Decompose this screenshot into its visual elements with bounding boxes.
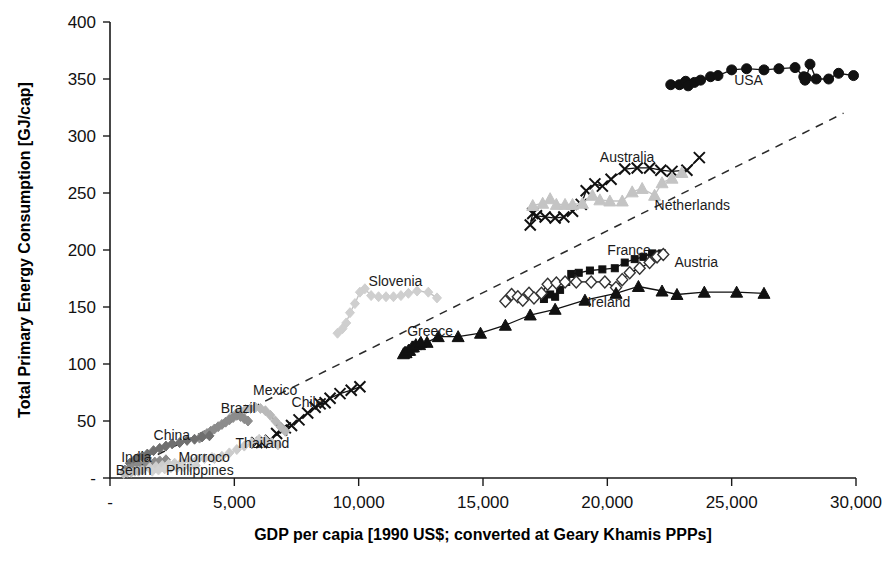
x-tick-label: 15,000 [457, 493, 509, 512]
x-tick-label: - [107, 493, 113, 512]
data-point [293, 414, 304, 425]
data-point [713, 71, 723, 81]
x-tick-label: 10,000 [333, 493, 385, 512]
series-line [530, 158, 699, 225]
data-point [801, 73, 811, 83]
series-label-brazil: Brazil [221, 400, 256, 416]
data-point [774, 64, 784, 74]
series-labels-layer: USAAustraliaNetherlandsFranceAustriaIrel… [116, 72, 764, 478]
y-tick-label: 200 [68, 241, 96, 260]
series-label-greece: Greece [407, 323, 453, 339]
x-tick-label: 30,000 [830, 493, 882, 512]
y-tick-label: 100 [68, 355, 96, 374]
data-point [404, 288, 413, 298]
data-point [790, 63, 800, 73]
data-point [350, 299, 359, 309]
x-axis-title: GDP per capia [1990 US$; converted at Ge… [254, 526, 712, 543]
series-label-thailand: Thailand [236, 435, 290, 451]
series-label-ireland: Ireland [587, 294, 630, 310]
data-point [586, 267, 593, 274]
series-label-france: France [607, 242, 651, 258]
data-point [636, 182, 648, 193]
data-point [811, 74, 821, 84]
series-label-mexico: Mexico [253, 382, 298, 398]
data-point [621, 259, 628, 266]
data-point [834, 68, 844, 78]
y-tick-label: 150 [68, 298, 96, 317]
series-label-usa: USA [734, 72, 763, 88]
energy-gdp-scatter-chart: -50100150200250300350400-5,00010,00015,0… [0, 0, 894, 572]
data-point [599, 266, 606, 273]
y-tick-label: 400 [68, 13, 96, 32]
data-point [849, 71, 859, 81]
data-point [626, 186, 638, 197]
data-point [696, 75, 706, 85]
data-point [424, 287, 433, 297]
x-tick-label: 5,000 [213, 493, 256, 512]
series-label-austria: Austria [674, 254, 718, 270]
data-point [805, 59, 815, 69]
y-tick-label: 350 [68, 70, 96, 89]
data-point [525, 219, 536, 230]
y-tick-label: - [90, 469, 96, 488]
y-tick-label: 50 [77, 412, 96, 431]
data-point [606, 174, 617, 185]
y-tick-label: 250 [68, 184, 96, 203]
data-point [632, 280, 644, 291]
series-greece [397, 336, 426, 358]
y-tick-label: 300 [68, 127, 96, 146]
data-point [568, 270, 575, 277]
chart-container: -50100150200250300350400-5,00010,00015,0… [0, 0, 894, 572]
data-point [824, 74, 834, 84]
data-point [335, 388, 346, 399]
y-axis-title: Total Primary Energy Consumption [GJ/cap… [16, 82, 33, 418]
data-point [499, 319, 511, 330]
data-point [432, 293, 441, 303]
series-label-slovenia: Slovenia [369, 273, 423, 289]
data-point [396, 291, 405, 301]
data-point [599, 276, 610, 288]
series-label-china: China [154, 427, 191, 443]
series-label-australia: Australia [600, 149, 655, 165]
series-label-netherlands: Netherlands [655, 197, 731, 213]
data-point [552, 293, 559, 300]
series-label-benin: Benin [116, 462, 152, 478]
data-point [325, 393, 336, 404]
data-point [345, 308, 354, 318]
data-point [475, 327, 487, 338]
data-point [586, 276, 597, 288]
series-ireland [399, 280, 770, 357]
data-point [611, 265, 618, 272]
data-point [389, 292, 398, 302]
data-point [694, 152, 705, 163]
x-tick-label: 25,000 [706, 493, 758, 512]
data-point [346, 385, 357, 396]
series-label-philippines: Philippines [166, 462, 234, 478]
x-tick-label: 20,000 [581, 493, 633, 512]
data-point [354, 381, 365, 392]
data-point [549, 303, 561, 314]
